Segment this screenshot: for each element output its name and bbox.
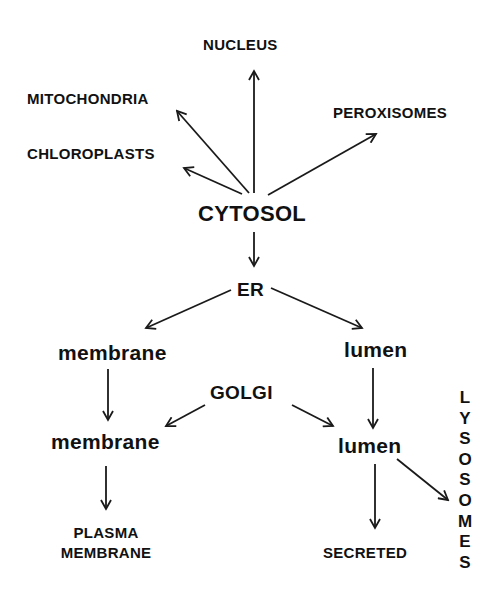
plasma-membrane-line2: MEMBRANE xyxy=(50,543,162,563)
arrow-cytosol-to-peroxisomes xyxy=(268,134,376,195)
arrow-golgi-to-lumen xyxy=(292,405,333,426)
arrow-golgi-to-membrane xyxy=(166,405,205,426)
node-golgi-lumen: lumen xyxy=(338,435,401,456)
plasma-membrane-line1: PLASMA xyxy=(50,523,162,543)
node-plasma-membrane: PLASMA MEMBRANE xyxy=(50,523,162,564)
node-nucleus: NUCLEUS xyxy=(203,37,278,52)
lysosomes-letter: O xyxy=(458,491,471,512)
lysosomes-letter: S xyxy=(459,429,470,450)
lysosomes-letter: S xyxy=(459,470,470,491)
lysosomes-letter: L xyxy=(460,388,470,409)
arrow-er-to-membrane xyxy=(146,290,231,328)
arrow-er-to-lumen xyxy=(271,288,362,328)
node-mitochondria: MITOCHONDRIA xyxy=(27,91,149,106)
node-secreted: SECRETED xyxy=(323,545,407,560)
node-golgi-membrane: membrane xyxy=(51,431,160,452)
node-er-membrane: membrane xyxy=(58,342,167,363)
lysosomes-letter: M xyxy=(458,512,472,533)
node-peroxisomes: PEROXISOMES xyxy=(333,105,447,120)
node-chloroplasts: CHLOROPLASTS xyxy=(27,146,155,161)
node-cytosol: CYTOSOL xyxy=(198,203,306,225)
arrow-cytosol-to-chloroplasts xyxy=(184,168,242,194)
arrow-lumen-to-lysosomes xyxy=(397,459,448,500)
lysosomes-letter: Y xyxy=(459,409,470,430)
lysosomes-letter: E xyxy=(459,532,470,553)
node-lysosomes: L Y S O S O M E S xyxy=(457,388,473,573)
lysosomes-letter: O xyxy=(458,450,471,471)
node-golgi: GOLGI xyxy=(210,383,273,402)
node-er-lumen: lumen xyxy=(344,339,407,360)
protein-sorting-diagram: NUCLEUS MITOCHONDRIA CHLOROPLASTS PEROXI… xyxy=(0,0,493,604)
lysosomes-letter: S xyxy=(459,553,470,574)
node-er: ER xyxy=(237,280,264,299)
